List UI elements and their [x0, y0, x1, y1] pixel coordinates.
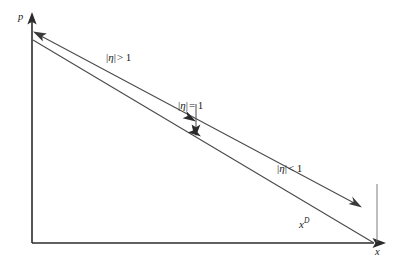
quantity-axis [32, 238, 386, 248]
price-axis-label: p [18, 12, 23, 23]
elasticity-diagram: p x |η|> 1 |η|= 1 |η|< 1 xD [0, 0, 401, 266]
inelastic-region-label: |η|< 1 [277, 163, 302, 174]
demand-curve-upper-start-arrowhead [33, 32, 47, 42]
demand-curve-lower-line [33, 40, 374, 243]
unit-elastic-relation: = 1 [188, 99, 203, 111]
quantity-axis-label: x [375, 247, 380, 258]
elastic-relation: > 1 [116, 51, 131, 63]
quantity-intercept-label: xD [299, 219, 309, 230]
diagram-canvas [0, 0, 401, 266]
demand-curve-lower [33, 40, 374, 243]
demand-curve-upper-line [41, 36, 356, 204]
unit-elastic-label: |η|= 1 [178, 100, 203, 111]
quantity-intercept-superscript: D [304, 216, 309, 225]
elastic-region-label: |η|> 1 [106, 52, 131, 63]
price-axis [27, 12, 36, 243]
demand-curve-upper [33, 32, 362, 208]
inelastic-relation: < 1 [287, 162, 302, 174]
demand-curve-upper-end-arrowhead [349, 197, 362, 208]
